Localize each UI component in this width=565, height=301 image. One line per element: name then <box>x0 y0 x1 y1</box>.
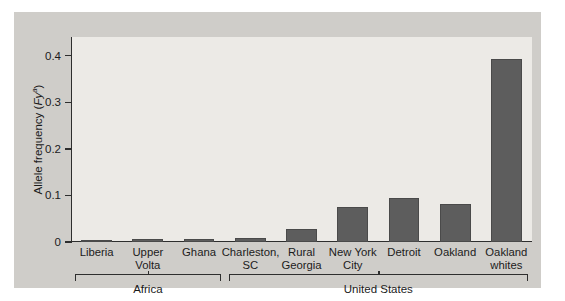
figure-panel: 00.10.20.30.4 Allele frequency (Fya) Lib… <box>14 12 541 288</box>
y-axis-tick: 0.4 <box>65 55 72 56</box>
x-axis-category-label: Charleston,SC <box>222 246 279 271</box>
x-axis-category-label: RuralGeorgia <box>273 246 330 271</box>
y-axis-tick: 0.2 <box>65 148 72 149</box>
x-axis-category-label: UpperVolta <box>119 246 176 271</box>
bar <box>235 238 266 242</box>
x-axis-category-label: Oaklandwhites <box>478 246 535 271</box>
bar <box>132 239 163 242</box>
group-bracket <box>229 274 528 281</box>
y-axis-tick: 0 <box>65 241 72 242</box>
y-axis-tick-label: 0.2 <box>45 143 61 155</box>
bar <box>81 240 112 242</box>
group-bracket-center-tick <box>148 271 149 275</box>
bar <box>491 59 522 242</box>
y-axis-tick-label: 0 <box>55 236 61 248</box>
y-axis-line <box>71 37 72 242</box>
group-label: Africa <box>75 283 221 295</box>
y-axis-title: Allele frequency (Fya) <box>27 37 43 242</box>
y-axis-tick-label: 0.4 <box>45 50 61 62</box>
bar <box>184 239 215 242</box>
y-axis-tick: 0.3 <box>65 102 72 103</box>
x-axis-category-label: Detroit <box>375 246 432 259</box>
bar <box>286 229 317 243</box>
group-bracket <box>75 274 221 281</box>
x-axis-category-label: New YorkCity <box>324 246 381 271</box>
y-axis-tick-label: 0.3 <box>45 96 61 108</box>
bar <box>440 204 471 242</box>
x-axis-category-label: Oakland <box>427 246 484 259</box>
group-bracket-center-tick <box>378 271 379 275</box>
x-axis-category-label: Liberia <box>68 246 125 259</box>
bar <box>389 198 420 242</box>
y-axis-tick-label: 0.1 <box>45 189 61 201</box>
y-axis-tick: 0.1 <box>65 195 72 196</box>
bar <box>337 207 368 242</box>
group-label: United States <box>229 283 528 295</box>
x-axis-category-label: Ghana <box>170 246 227 259</box>
